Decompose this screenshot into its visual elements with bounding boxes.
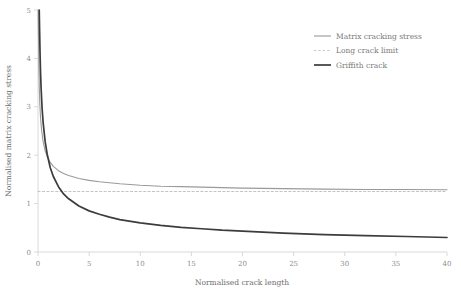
y-tick-label: 1 [27,200,31,208]
x-tick-label: 25 [289,260,298,268]
y-axis-ticks: 012345 [27,7,38,257]
chart-container: 012345 0510152025303540 Normalised crack… [0,0,461,298]
chart-series-group [38,10,447,237]
line-chart: 012345 0510152025303540 Normalised crack… [0,0,461,298]
legend-label-0: Matrix cracking stress [336,32,422,41]
x-tick-label: 5 [87,260,91,268]
x-tick-label: 30 [340,260,349,268]
chart-legend: Matrix cracking stressLong crack limitGr… [314,32,422,70]
y-tick-label: 4 [27,55,32,63]
x-tick-label: 15 [187,260,196,268]
y-tick-label: 2 [27,152,31,160]
legend-label-1: Long crack limit [336,46,398,55]
x-axis-ticks: 0510152025303540 [36,252,452,268]
x-tick-label: 20 [238,260,247,268]
y-tick-label: 5 [27,7,31,15]
x-tick-label: 0 [36,260,40,268]
y-axis-title: Normalised matrix cracking stress [4,65,13,197]
y-tick-label: 0 [27,249,31,257]
x-tick-label: 35 [391,260,400,268]
y-tick-label: 3 [27,103,31,111]
x-tick-label: 40 [443,260,452,268]
legend-label-2: Griffith crack [336,61,387,70]
x-tick-label: 10 [136,260,145,268]
x-axis-title: Normalised crack length [195,278,289,287]
series-line-2 [39,10,447,237]
